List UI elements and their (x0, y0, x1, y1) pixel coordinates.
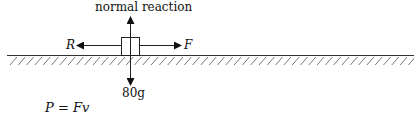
weight-label: 80g (122, 87, 145, 99)
normal-reaction-label: normal reaction (95, 1, 192, 13)
force-label: F (184, 39, 192, 51)
power-equation: P = Fv (45, 101, 89, 114)
ground-hatching (10, 57, 414, 65)
force-diagram (0, 0, 414, 114)
resistance-label: R (66, 39, 75, 51)
